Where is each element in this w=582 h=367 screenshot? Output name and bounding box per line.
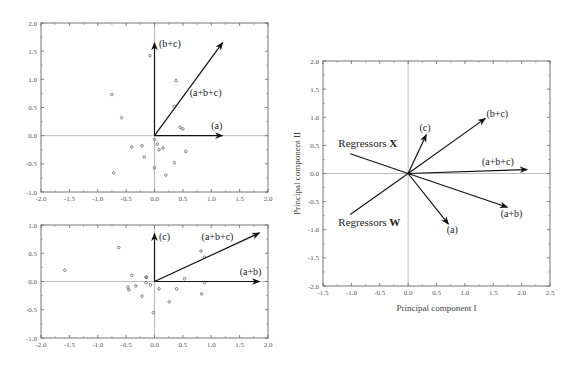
regressor-label: Regressors W [338,216,400,228]
data-point [149,54,152,57]
x-tick-label: -1.5 [64,195,76,203]
regressor-label: Regressors X [338,137,397,149]
vector-label: (b+c) [159,38,181,50]
y-tick-label: 1.0 [28,76,37,84]
x-tick-label: -2.0 [35,195,47,203]
data-point [131,274,134,277]
scatter-panel-bottom-left: -2.0-1.5-1.0-0.50.00.51.01.52.0-1.0-0.50… [26,222,273,350]
x-tick-label: -2.0 [35,341,47,349]
data-point [145,276,148,279]
y-tick-label: -0.5 [26,160,38,168]
x-tick-label: 0.5 [179,341,188,349]
y-tick-label: 1.5 [28,48,37,56]
x-tick-label: 1.5 [235,195,244,203]
vector-label: (c) [419,122,430,134]
x-tick-label: -0.5 [374,289,386,297]
vector-arrow [408,174,507,208]
vector-label: (a) [447,224,458,236]
data-point [200,250,203,253]
data-point [149,284,152,287]
x-tick-label: -1.0 [92,195,104,203]
y-tick-label: -1.0 [26,335,38,343]
data-point [117,246,120,249]
pca-biplot-panel-right: -1.5-1.0-0.50.00.51.01.52.02.5-2.0-1.5-1… [292,58,555,314]
y-tick-label: 1.0 [28,222,37,230]
data-point [175,288,178,291]
y-tick-label: 0.0 [310,170,319,178]
y-tick-label: 1.0 [310,114,319,122]
y-tick-label: 2.0 [28,20,37,28]
x-tick-label: 0.0 [404,289,413,297]
x-tick-label: 2.5 [546,289,555,297]
data-point [128,289,131,292]
vector-label: (b+c) [486,108,508,120]
x-tick-label: -1.5 [64,341,76,349]
figure-svg: -2.0-1.5-1.0-0.50.00.51.01.52.0-1.0-0.50… [0,0,582,367]
figure: -2.0-1.5-1.0-0.50.00.51.01.52.0-1.0-0.50… [0,0,582,367]
data-point [183,277,186,280]
data-point [182,128,185,131]
x-tick-label: 0.0 [150,341,159,349]
data-point [131,146,134,149]
data-point [145,281,148,284]
scatter-panel-top-left: -2.0-1.5-1.0-0.50.00.51.01.52.0-1.0-0.50… [26,20,273,204]
data-point [112,172,115,175]
x-tick-label: 1.0 [207,195,216,203]
x-tick-label: 2.0 [264,195,273,203]
data-point [64,269,67,272]
x-tick-label: -1.5 [317,289,329,297]
data-point [165,174,168,177]
x-tick-label: 0.5 [179,195,188,203]
vector-label: (a+b+c) [482,156,514,168]
x-tick-label: 1.5 [235,341,244,349]
vector-label: (a+b) [501,208,523,220]
y-axis-title: Principal component II [292,132,302,215]
data-point [134,285,137,288]
regressor-line [350,154,408,174]
data-point [200,293,203,296]
data-point [141,295,144,298]
y-tick-label: 0.5 [310,142,319,150]
x-tick-label: 2.0 [517,289,526,297]
vector-arrow [408,170,527,174]
x-tick-label: 0.5 [432,289,441,297]
y-tick-label: -0.5 [26,306,38,314]
data-point [168,301,171,304]
y-tick-label: 0.5 [28,250,37,258]
vector-label: (a+b+c) [190,87,222,99]
data-point [120,116,123,119]
x-tick-label: -1.0 [92,341,104,349]
x-tick-label: 1.0 [461,289,470,297]
vector-label: (c) [159,231,170,243]
data-point [184,150,187,153]
data-point [127,286,130,289]
y-tick-label: -2.0 [308,283,320,291]
data-point [158,288,161,291]
x-tick-label: -1.0 [346,289,358,297]
y-tick-label: 2.0 [310,58,319,66]
data-point [173,161,176,164]
y-tick-label: 0.0 [28,132,37,140]
x-tick-label: -0.5 [121,341,133,349]
x-tick-label: 1.0 [207,341,216,349]
y-tick-label: 0.5 [28,104,37,112]
y-tick-label: 1.5 [310,86,319,94]
vector-label: (a) [211,120,222,132]
data-point [141,145,144,148]
data-point [156,143,159,146]
data-point [143,156,146,159]
x-tick-label: 1.5 [489,289,498,297]
x-tick-label: 2.0 [264,341,273,349]
x-tick-label: 0.0 [150,195,159,203]
vector-arrow [408,174,448,225]
y-tick-label: -1.0 [308,226,320,234]
y-tick-label: 0.0 [28,278,37,286]
data-point [179,126,182,129]
vector-label: (a+b+c) [202,231,234,243]
y-tick-label: -1.0 [26,189,38,197]
data-point [175,79,178,82]
y-tick-label: -0.5 [308,198,320,206]
data-point [162,147,165,150]
data-point [111,93,114,96]
vector-label: (a+b) [240,266,262,278]
